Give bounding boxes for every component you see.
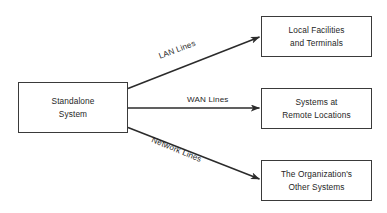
node-local-facilities-and-terminals-label: Local Facilities and Terminals <box>285 24 347 48</box>
diagram-canvas: Standalone System Local Facilities and T… <box>0 0 387 213</box>
node-local-facilities-and-terminals: Local Facilities and Terminals <box>261 16 372 57</box>
node-standalone-system: Standalone System <box>18 82 128 133</box>
node-the-organizations-other-systems: The Organization's Other Systems <box>261 160 372 201</box>
node-the-organizations-other-systems-label: The Organization's Other Systems <box>278 168 355 192</box>
node-systems-at-remote-locations-label: Systems at Remote Locations <box>279 96 353 120</box>
edge-label-wan-lines: WAN Lines <box>187 95 229 104</box>
node-standalone-system-label: Standalone System <box>49 95 98 119</box>
node-systems-at-remote-locations: Systems at Remote Locations <box>261 88 372 129</box>
